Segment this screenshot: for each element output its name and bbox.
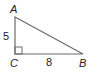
right-angle-marker: [15, 47, 22, 54]
side-label-ac: 5: [3, 30, 9, 42]
triangle-abc: [15, 17, 83, 54]
triangle-diagram: A C B 5 8: [0, 0, 98, 73]
vertex-label-a: A: [9, 3, 17, 15]
side-label-cb: 8: [46, 56, 52, 68]
vertex-label-c: C: [10, 57, 18, 69]
vertex-label-b: B: [79, 57, 86, 69]
